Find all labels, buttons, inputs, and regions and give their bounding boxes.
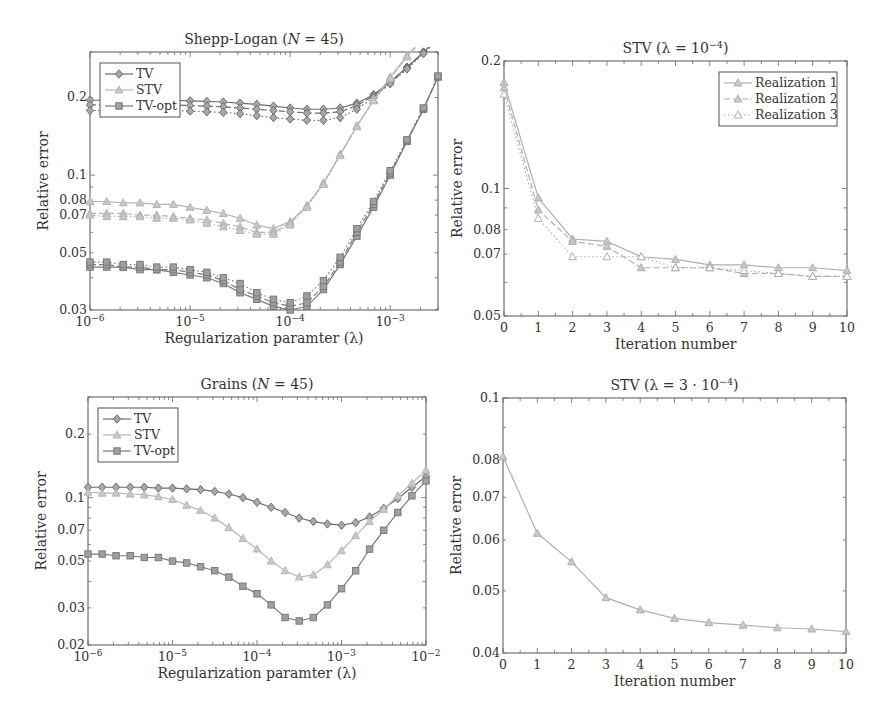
y-tick-label: 0.07 — [472, 489, 500, 504]
y-tick-label: 0.06 — [472, 532, 500, 547]
data-marker — [420, 35, 428, 42]
y-tick-label: 0.07 — [57, 522, 85, 537]
series-line — [503, 457, 846, 632]
x-tick-label: 0 — [500, 320, 508, 335]
x-tick-label: 3 — [603, 320, 611, 335]
data-marker — [434, 34, 441, 42]
data-marker — [183, 560, 189, 566]
x-tick-label: 10 — [838, 657, 854, 672]
x-axis-label: Iteration number — [615, 336, 737, 352]
data-marker — [387, 168, 393, 174]
x-tick-label: 6 — [705, 657, 713, 672]
data-marker — [204, 269, 210, 275]
data-marker — [99, 551, 105, 557]
data-marker — [225, 524, 233, 531]
data-marker — [254, 290, 260, 296]
data-marker — [434, 22, 442, 29]
series-group — [499, 453, 850, 635]
data-marker — [409, 493, 415, 499]
series-tv — [84, 472, 429, 529]
chart-grains: Grains (N = 45)0.020.030.050.070.10.210−… — [0, 360, 442, 720]
legend-label: TV — [136, 66, 154, 81]
data-marker — [220, 108, 227, 116]
data-marker — [381, 527, 387, 533]
data-marker — [253, 111, 260, 119]
data-marker — [422, 466, 430, 473]
data-marker — [239, 534, 247, 541]
x-axis-label: Regularization paramter (λ) — [165, 330, 364, 346]
x-tick-label: 8 — [773, 657, 781, 672]
data-marker — [281, 567, 289, 574]
data-marker — [309, 571, 317, 578]
data-marker — [534, 214, 542, 221]
data-marker — [637, 253, 645, 260]
data-marker — [127, 553, 133, 559]
y-tick-label: 0.07 — [473, 246, 501, 261]
data-marker — [225, 490, 232, 498]
y-axis-label: Relative error — [448, 476, 464, 575]
data-marker — [211, 514, 219, 521]
data-marker — [183, 485, 190, 493]
series-stv — [499, 453, 850, 635]
data-marker — [395, 509, 401, 515]
x-tick-label: 8 — [774, 320, 782, 335]
data-marker — [420, 105, 426, 111]
data-marker — [120, 261, 126, 267]
data-marker — [354, 225, 360, 231]
data-marker — [296, 514, 303, 522]
data-marker — [197, 486, 204, 494]
y-axis-label: Relative error — [33, 471, 49, 570]
legend-label: Realization 1 — [755, 75, 838, 90]
data-marker — [296, 618, 302, 624]
data-marker — [270, 296, 276, 302]
data-marker — [534, 194, 542, 201]
y-tick-label: 0.08 — [473, 222, 501, 237]
legend: TVSTVTV-opt — [100, 63, 180, 117]
y-tick-label: 0.2 — [67, 89, 87, 104]
series-group — [84, 466, 430, 624]
data-marker — [533, 529, 541, 536]
data-marker — [404, 137, 410, 143]
data-marker — [137, 261, 143, 267]
legend-label: TV-opt — [136, 98, 177, 113]
x-tick-label: 10−5 — [158, 648, 187, 664]
data-marker — [268, 503, 275, 511]
y-axis-label: Relative error — [449, 139, 465, 238]
data-marker — [114, 448, 120, 454]
y-tick-label: 0.1 — [65, 490, 85, 505]
x-tick-label: 0 — [499, 657, 507, 672]
series-line — [88, 470, 426, 577]
data-marker — [420, 35, 428, 42]
data-marker — [253, 498, 260, 506]
data-marker — [434, 21, 442, 28]
x-tick-label: 10−3 — [327, 648, 356, 664]
data-marker — [434, 22, 442, 29]
data-marker — [282, 614, 288, 620]
series-line — [90, 26, 438, 232]
chart-title: Shepp-Logan (N = 45) — [184, 31, 344, 47]
legend-label: Realization 3 — [755, 107, 838, 122]
x-tick-label: 2 — [569, 320, 577, 335]
data-marker — [310, 517, 317, 525]
chart-shepp-logan: Shepp-Logan (N = 45)0.030.050.070.080.10… — [0, 0, 442, 364]
data-marker — [253, 545, 261, 552]
series-line — [90, 26, 438, 229]
x-tick-label: 2 — [568, 657, 576, 672]
data-marker — [84, 488, 92, 495]
data-marker — [141, 554, 147, 560]
y-tick-label: 0.05 — [59, 245, 87, 260]
data-marker — [169, 484, 176, 492]
x-tick-label: 10−6 — [75, 313, 104, 329]
x-tick-label: 3 — [602, 657, 610, 672]
data-marker — [337, 113, 344, 121]
series-stv-realization-1 — [86, 21, 442, 231]
data-marker — [352, 568, 358, 574]
data-marker — [170, 264, 176, 270]
data-marker — [324, 602, 330, 608]
chart-svg: Shepp-Logan (N = 45)0.030.050.070.080.10… — [0, 0, 442, 360]
data-marker — [169, 558, 175, 564]
y-tick-label: 0.1 — [67, 167, 87, 182]
data-marker — [434, 35, 441, 43]
data-marker — [187, 266, 193, 272]
x-axis-label: Iteration number — [614, 673, 736, 689]
